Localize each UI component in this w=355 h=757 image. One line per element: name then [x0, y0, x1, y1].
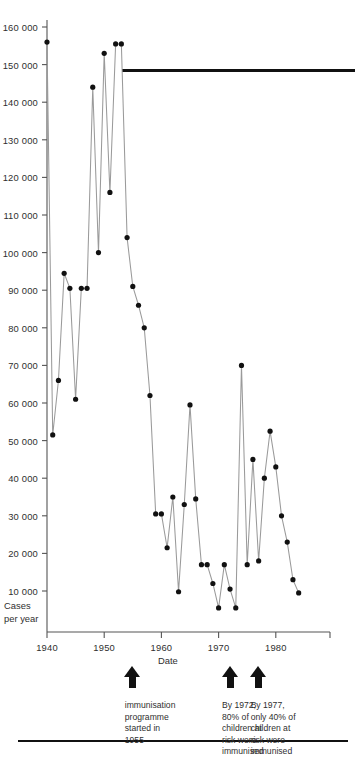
- data-line: [47, 42, 299, 608]
- data-point: [262, 476, 267, 481]
- arrow-shaft: [129, 675, 136, 688]
- data-point: [193, 496, 198, 501]
- data-point: [90, 85, 95, 90]
- data-point: [216, 605, 221, 610]
- data-point: [210, 581, 215, 586]
- y-axis-title: Cases per year: [4, 600, 38, 625]
- data-point: [182, 502, 187, 507]
- data-point: [233, 605, 238, 610]
- data-point: [199, 562, 204, 567]
- y-axis-tick-label: 20 000: [0, 548, 38, 559]
- data-point: [50, 432, 55, 437]
- data-point: [267, 429, 272, 434]
- data-point: [124, 235, 129, 240]
- data-point: [222, 562, 227, 567]
- y-axis-tick-label: 160 000: [0, 22, 38, 33]
- x-axis-tick-label: 1950: [93, 642, 115, 653]
- y-axis-tick-label: 80 000: [0, 322, 38, 333]
- data-markers: [44, 39, 301, 610]
- y-axis-tick-label: 110 000: [0, 210, 38, 221]
- data-point: [227, 587, 232, 592]
- data-point: [119, 41, 124, 46]
- data-point: [107, 190, 112, 195]
- data-point: [142, 325, 147, 330]
- data-point: [79, 286, 84, 291]
- data-point: [279, 513, 284, 518]
- data-point: [170, 494, 175, 499]
- data-point: [147, 393, 152, 398]
- data-point: [96, 250, 101, 255]
- data-point: [187, 402, 192, 407]
- data-point: [205, 562, 210, 567]
- x-axis-ticks: [47, 632, 330, 638]
- data-point: [56, 378, 61, 383]
- y-axis-tick-label: 120 000: [0, 172, 38, 183]
- data-point: [245, 562, 250, 567]
- data-point: [44, 39, 49, 44]
- arrow-shaft: [227, 675, 234, 688]
- x-axis-tick-label: 1970: [208, 642, 230, 653]
- data-point: [84, 286, 89, 291]
- data-point: [165, 545, 170, 550]
- arrow-shaft: [255, 675, 262, 688]
- data-point: [153, 511, 158, 516]
- annotation-text-by-1977: By 1977, only 40% of children at risk we…: [251, 700, 313, 757]
- y-axis-tick-label: 60 000: [0, 398, 38, 409]
- x-axis-tick-label: 1960: [151, 642, 173, 653]
- y-axis-tick-label: 90 000: [0, 285, 38, 296]
- data-point: [296, 590, 301, 595]
- y-axis-tick-label: 70 000: [0, 360, 38, 371]
- y-axis-tick-label: 130 000: [0, 134, 38, 145]
- data-point: [113, 41, 118, 46]
- data-point: [250, 457, 255, 462]
- data-point: [67, 286, 72, 291]
- x-axis-tick-label: 1980: [265, 642, 287, 653]
- y-axis-ticks: [42, 27, 47, 591]
- y-axis-tick-label: 30 000: [0, 510, 38, 521]
- data-point: [159, 511, 164, 516]
- data-point: [136, 303, 141, 308]
- x-axis-tick-label: 1940: [36, 642, 58, 653]
- y-axis-tick-label: 50 000: [0, 435, 38, 446]
- data-point: [256, 558, 261, 563]
- x-axis-title: Date: [158, 655, 178, 666]
- measles-cases-figure: 10 00020 00030 00040 00050 00060 00070 0…: [0, 0, 355, 757]
- data-point: [239, 363, 244, 368]
- data-point: [273, 464, 278, 469]
- y-axis-tick-label: 10 000: [0, 586, 38, 597]
- data-point: [73, 397, 78, 402]
- data-point: [130, 284, 135, 289]
- chart-svg: [0, 0, 355, 660]
- y-axis-tick-label: 150 000: [0, 59, 38, 70]
- y-axis-tick-label: 40 000: [0, 473, 38, 484]
- data-point: [290, 577, 295, 582]
- line-chart-plot: [0, 0, 355, 660]
- annotation-text-immunisation-programme: immunisation programme started in 1955: [125, 700, 187, 746]
- data-point: [176, 589, 181, 594]
- y-axis-tick-label: 100 000: [0, 247, 38, 258]
- data-point: [102, 51, 107, 56]
- y-axis-tick-label: 140 000: [0, 97, 38, 108]
- data-point: [285, 540, 290, 545]
- data-point: [62, 271, 67, 276]
